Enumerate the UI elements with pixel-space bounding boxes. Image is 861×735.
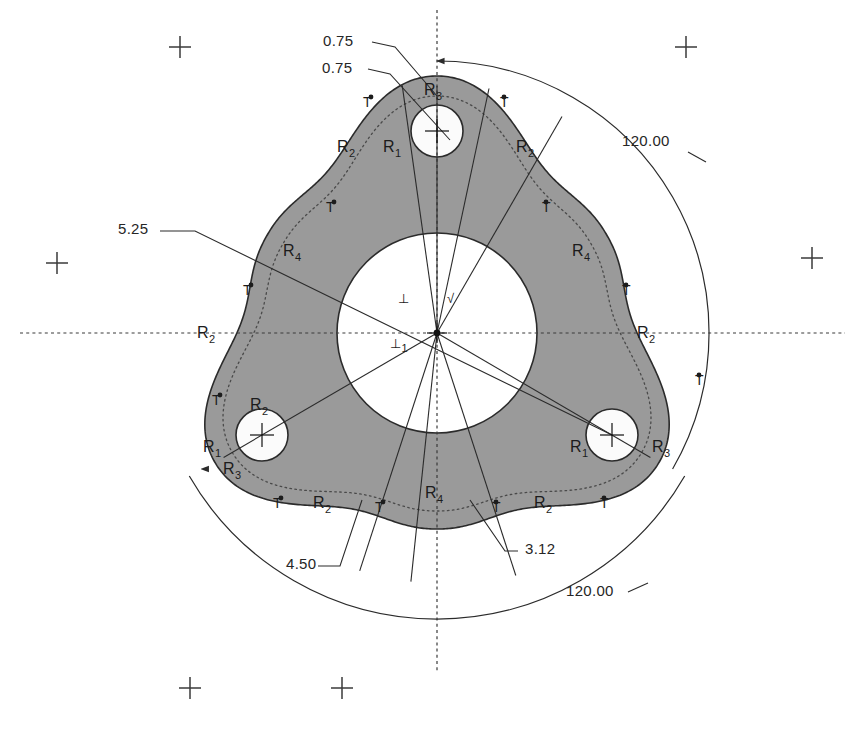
radius-subscript: 2	[349, 147, 355, 159]
dim-450-bottom: 4.50	[286, 555, 316, 572]
perpendicular-symbol-upper: ⊥	[398, 291, 409, 306]
tangent-mark: T	[695, 372, 704, 388]
dim-120-upper-right: 120.00	[622, 132, 670, 149]
dim-075-lower: 0.75	[322, 59, 352, 76]
check-symbol-center: √	[447, 291, 455, 306]
tangent-mark: T	[273, 495, 282, 511]
radius-subscript: 3	[235, 469, 241, 481]
tangent-mark: T	[326, 199, 335, 215]
radius-subscript: 4	[437, 493, 443, 505]
dim-075-upper: 0.75	[323, 32, 353, 49]
dim-525-left: 5.25	[118, 220, 148, 237]
radius-subscript: 2	[209, 333, 215, 345]
tangent-mark: T	[375, 499, 384, 515]
tangent-mark: T	[500, 94, 509, 110]
radius-subscript: 4	[295, 251, 301, 263]
tangent-mark: T	[622, 282, 631, 298]
tangent-mark: T	[363, 94, 372, 110]
tangent-mark: T	[492, 499, 501, 515]
radius-subscript: 1	[582, 447, 588, 459]
tangent-mark: T	[212, 392, 221, 408]
dim-120-bottom: 120.00	[566, 582, 614, 599]
radius-subscript: 3	[436, 90, 442, 102]
radius-subscript: 2	[546, 503, 552, 515]
tangent-mark: T	[243, 282, 252, 298]
tangent-mark: T	[600, 495, 609, 511]
technical-drawing-canvas: 0.750.75120.005.254.503.12120.00 R3R1R2R…	[0, 0, 861, 735]
radius-subscript: 1	[395, 147, 401, 159]
part-center-node	[434, 330, 441, 337]
radius-subscript: 2	[262, 405, 268, 417]
radius-subscript: 2	[325, 503, 331, 515]
tangent-mark: T	[542, 199, 551, 215]
cad-drawing-svg: 0.750.75120.005.254.503.12120.00 R3R1R2R…	[0, 0, 861, 735]
radius-subscript: 2	[649, 333, 655, 345]
radius-subscript: 2	[528, 147, 534, 159]
gdt-subscript: 1	[402, 342, 408, 354]
radius-subscript: 4	[584, 251, 590, 263]
dim-312-bottom: 3.12	[525, 540, 555, 557]
radius-subscript: 3	[664, 447, 670, 459]
radius-subscript: 1	[215, 447, 221, 459]
